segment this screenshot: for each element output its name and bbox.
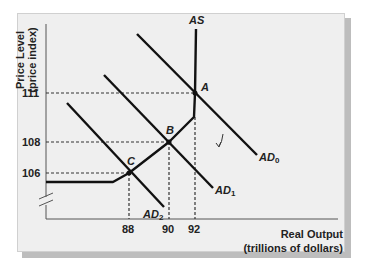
x-tick-88: 88 <box>122 223 134 235</box>
point-a <box>193 91 198 96</box>
x-axis-label: Real Output (trillions of dollars) <box>243 227 343 255</box>
ad2-label-main: AD <box>143 208 159 220</box>
ad0-label: AD0 <box>259 151 279 165</box>
ad1-label-sub: 1 <box>231 189 235 198</box>
x-axis-label-line1: Real Output <box>243 227 343 241</box>
point-a-label: A <box>201 81 209 93</box>
point-b-label: B <box>166 124 174 136</box>
shift-arrow-icon <box>216 134 223 147</box>
ad1-label: AD1 <box>215 184 235 198</box>
ad2-curve <box>67 103 164 207</box>
ad2-label-sub: 2 <box>159 213 163 222</box>
guide-lines <box>46 93 195 219</box>
point-c <box>127 171 132 176</box>
x-tick-90: 90 <box>162 223 174 235</box>
point-c-label: C <box>127 155 135 167</box>
ad2-label: AD2 <box>143 208 163 222</box>
ad0-label-main: AD <box>259 151 275 163</box>
y-tick-106: 106 <box>22 167 40 179</box>
ad1-label-main: AD <box>215 184 231 196</box>
ad0-label-sub: 0 <box>275 156 279 165</box>
x-axis-label-line2: (trillions of dollars) <box>243 241 343 255</box>
x-tick-92: 92 <box>188 223 200 235</box>
y-tick-111: 111 <box>22 87 39 99</box>
point-b <box>167 140 172 145</box>
y-tick-108: 108 <box>22 136 40 148</box>
as-label: AS <box>189 14 204 26</box>
